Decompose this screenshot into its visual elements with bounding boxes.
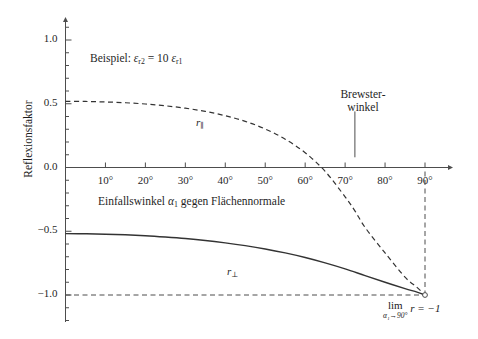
factor-value: 10 [157, 52, 169, 64]
x-tick-label-60: 60° [292, 174, 318, 186]
curve-label-r-parallel: r∥ [196, 116, 204, 130]
x-tick-label-90: 90° [412, 174, 438, 186]
brewster-angle-annotation: Brewster- winkel [318, 88, 408, 113]
limit-expression: r = −1 [410, 302, 440, 314]
x-axis-title: Einfallswinkel α1 gegen Flächennormale [98, 195, 285, 210]
epsilon-r1-subscript: r1 [176, 57, 183, 66]
y-tick-label-0: 0.0 [18, 160, 58, 172]
brewster-line-2: winkel [318, 101, 408, 114]
y-tick-label--0.5: −0.5 [18, 223, 58, 235]
example-prefix: Beispiel: [90, 52, 131, 64]
epsilon-r2-subscript: r2 [138, 57, 145, 66]
x-tick-label-30: 30° [172, 174, 198, 186]
x-axis-major-ticks [105, 163, 425, 168]
r-perpendicular-subscript: ⊥ [231, 270, 238, 279]
y-tick-label-1: 1.0 [18, 32, 58, 44]
x-tick-label-80: 80° [372, 174, 398, 186]
y-tick-label-0.5: 0.5 [18, 96, 58, 108]
equals-sign: = [148, 52, 155, 64]
x-tick-label-70: 70° [332, 174, 358, 186]
limit-subscript: α₁→90° [383, 312, 408, 320]
curve-r-perpendicular [66, 234, 426, 295]
x-tick-label-40: 40° [212, 174, 238, 186]
y-tick-label--1: −1.0 [18, 287, 58, 299]
reference-lines [66, 172, 426, 296]
brewster-line-1: Brewster- [318, 88, 408, 101]
x-axis-title-text: Einfallswinkel α1 gegen Flächennormale [98, 195, 285, 207]
y-axis-minor-ticks [66, 27, 70, 320]
convergence-point-marker [423, 293, 428, 298]
reflection-factor-chart: Reflexionsfaktor Einfallswinkel α1 gegen… [0, 0, 478, 339]
x-tick-label-10: 10° [92, 174, 118, 186]
example-annotation: Beispiel: εr2 = 10 εr1 [90, 52, 183, 67]
x-tick-label-50: 50° [252, 174, 278, 186]
limit-operator: lim α₁→90° [383, 300, 408, 320]
curve-label-r-perpendicular: r⊥ [227, 265, 238, 279]
limit-annotation: lim α₁→90° r = −1 [383, 300, 440, 320]
plot-canvas [0, 0, 478, 339]
r-parallel-subscript: ∥ [200, 121, 203, 130]
x-tick-label-20: 20° [132, 174, 158, 186]
y-axis-title-wrapper: Reflexionsfaktor [18, 64, 36, 214]
limit-lim-text: lim [383, 300, 408, 311]
